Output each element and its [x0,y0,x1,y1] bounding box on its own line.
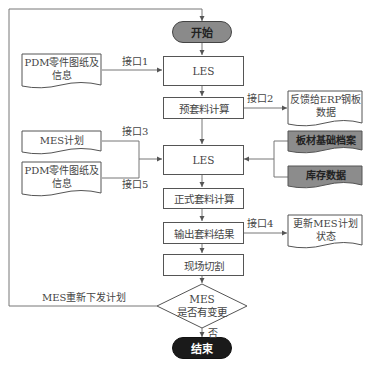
process-cutting: 现场切割 [163,254,244,276]
doc-line: 信息 [22,69,102,82]
interface-2-label: 接口2 [247,94,273,104]
doc-erp-feedback: 反馈给ERP钢板 数据 [288,93,363,119]
doc-line: MES计划 [22,134,102,147]
doc-inventory: 库存数据 [288,169,363,182]
process-label: LES [193,154,215,166]
loop-label: MES重新下发计划 [42,293,126,303]
interface-4-label: 接口4 [247,219,273,229]
doc-plate-archive: 板材基础档案 [288,134,363,147]
decision-line1: MES [157,293,247,306]
end-terminator: 结束 [172,337,232,359]
end-label: 结束 [191,340,213,356]
doc-pdm1: PDM零件图纸及 信息 [22,56,102,82]
process-label: 预套料计算 [179,101,229,116]
doc-mes-plan: MES计划 [22,134,102,147]
decision-line2: 是否有变更 [157,306,247,319]
doc-line: 更新MES计划 [288,217,363,230]
doc-line: 状态 [288,230,363,243]
doc-line: 库存数据 [288,169,363,182]
process-les-1: LES [163,56,244,86]
start-terminator: 开始 [172,21,232,43]
process-les-2: LES [163,145,244,175]
doc-mes-update: 更新MES计划 状态 [288,217,363,243]
doc-line: PDM零件图纸及 [22,164,102,177]
interface-5-label: 接口5 [122,180,148,190]
interface-1-label: 接口1 [122,57,148,67]
process-label: 正式套料计算 [174,191,234,206]
doc-line: 板材基础档案 [288,134,363,147]
doc-line: 反馈给ERP钢板 [288,93,363,106]
process-formal-nesting: 正式套料计算 [163,188,244,209]
doc-pdm2: PDM零件图纸及 信息 [22,164,102,190]
doc-line: PDM零件图纸及 [22,56,102,69]
decision-no-label: 否 [208,329,218,339]
process-pre-nesting: 预套料计算 [163,97,244,119]
process-label: 现场切割 [184,258,224,273]
decision-text: MES 是否有变更 [157,293,247,319]
start-label: 开始 [191,24,213,40]
doc-line: 信息 [22,177,102,190]
process-label: 输出套料结果 [174,226,234,241]
interface-3-label: 接口3 [122,127,148,137]
process-output-result: 输出套料结果 [163,222,244,244]
process-label: LES [193,65,215,77]
doc-line: 数据 [288,106,363,119]
